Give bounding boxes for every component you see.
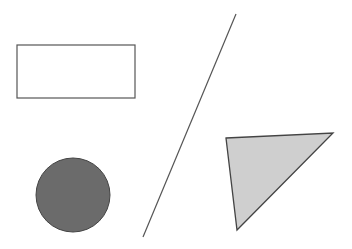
filled-circle (36, 158, 110, 232)
triangle-shape (226, 133, 333, 230)
rectangle-shape (17, 45, 135, 98)
diagram-canvas (0, 0, 352, 249)
diagonal-line (143, 14, 236, 237)
